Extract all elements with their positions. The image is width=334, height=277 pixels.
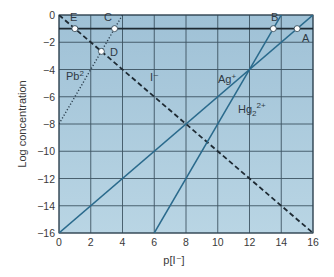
y-axis-title: Log concentration (16, 80, 28, 167)
y-tick-label: −6 (43, 91, 55, 103)
precipitation-titration-chart: 0−2−4−6−8−10−12−14−16 0246810121416 Log … (0, 0, 334, 277)
x-axis-title: p[I⁻] (163, 254, 184, 266)
label-lead-base: Pb (66, 70, 79, 82)
x-tick-label: 16 (307, 236, 319, 248)
point-marker-e (72, 26, 78, 32)
label-lead-sup: 2 (79, 69, 84, 78)
x-tick-label: 0 (56, 236, 62, 248)
y-tick-label: −14 (37, 200, 55, 212)
y-tick-label: −2 (43, 36, 55, 48)
point-label-b: B (271, 11, 278, 23)
x-tick-label: 10 (212, 236, 224, 248)
point-label-a: A (302, 32, 310, 44)
point-label-c: C (104, 11, 112, 23)
x-tick-label: 2 (88, 236, 94, 248)
y-tick-label: −4 (43, 64, 55, 76)
y-tick-label: −8 (43, 118, 55, 130)
label-silver-sup: + (231, 72, 236, 81)
point-label-e: E (70, 11, 77, 23)
x-tick-label: 14 (275, 236, 287, 248)
y-tick-label: 0 (49, 9, 55, 21)
x-tick-label: 12 (244, 236, 256, 248)
point-marker-d (98, 48, 104, 54)
label-mercury-sup: 2+ (257, 101, 266, 110)
y-tick-label: −16 (37, 227, 55, 239)
x-tick-label: 4 (120, 236, 126, 248)
point-marker-b (270, 26, 276, 32)
point-label-d: D (110, 46, 118, 58)
label-iodide: I⁻ (150, 71, 159, 83)
x-tick-label: 8 (183, 236, 189, 248)
y-tick-label: −12 (37, 173, 55, 185)
point-marker-c (112, 26, 118, 32)
x-axis-ticks: 0246810121416 (56, 236, 319, 248)
x-axis-title-text: p[I⁻] (163, 254, 184, 266)
label-mercury-base: Hg (238, 103, 252, 115)
y-tick-label: −10 (37, 145, 55, 157)
y-axis-ticks: 0−2−4−6−8−10−12−14−16 (37, 9, 55, 239)
x-tick-label: 6 (151, 236, 157, 248)
point-marker-a (294, 26, 300, 32)
label-silver-base: Ag (218, 73, 231, 85)
label-mercury-sub: 2 (252, 109, 257, 118)
